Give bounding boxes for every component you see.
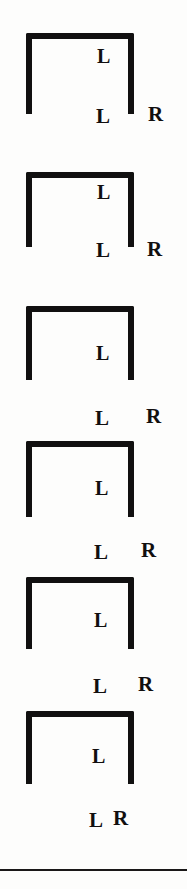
bracket-shape-3 — [26, 306, 134, 380]
inner-label-3: L — [96, 343, 109, 363]
bottom-label-left-3: L — [95, 408, 109, 429]
inner-label-1: L — [97, 46, 110, 66]
bottom-label-right-2: R — [147, 239, 162, 260]
bracket-shape-5 — [26, 577, 134, 649]
bracket-shape-6 — [26, 711, 134, 784]
bracket-shape-1 — [26, 33, 134, 114]
inner-label-2: L — [97, 182, 110, 202]
inner-label-6: L — [92, 746, 105, 766]
bottom-label-right-4: R — [141, 540, 156, 561]
inner-label-4: L — [95, 478, 108, 498]
bottom-separator-rule — [0, 869, 187, 871]
bottom-label-right-1: R — [148, 104, 163, 125]
bottom-label-right-6: R — [113, 808, 128, 829]
bottom-label-left-5: L — [93, 676, 107, 697]
bottom-label-left-2: L — [96, 240, 110, 261]
figure-page: L L R L L R L L R L L R L L R L L R — [0, 0, 187, 889]
bottom-label-left-6: L — [89, 810, 103, 831]
bracket-shape-4 — [26, 441, 134, 517]
bottom-label-right-5: R — [138, 674, 153, 695]
bracket-shape-2 — [26, 172, 134, 247]
bottom-label-left-4: L — [94, 542, 108, 563]
bottom-label-right-3: R — [146, 406, 161, 427]
bottom-label-left-1: L — [96, 106, 110, 127]
inner-label-5: L — [94, 610, 107, 630]
